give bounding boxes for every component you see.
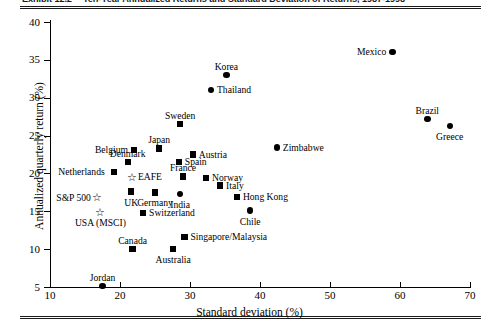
circle-marker-icon — [274, 144, 280, 150]
data-point-label: Canada — [118, 236, 147, 246]
scatter-plot: 510152025303540 10203040506070 MexicoKor… — [0, 0, 499, 327]
data-point-label: Switzerland — [149, 208, 195, 218]
data-point-label: Hong Kong — [243, 192, 288, 202]
x-tick-label: 10 — [35, 290, 65, 301]
x-tick-label: 70 — [455, 290, 485, 301]
y-axis-line — [50, 20, 51, 288]
x-tick-label: 50 — [315, 290, 345, 301]
data-point-label: Denmark — [110, 149, 146, 159]
data-point-label: Singapore/Malaysia — [190, 232, 267, 242]
data-point-label: Italy — [226, 181, 244, 191]
y-tick-mark — [44, 287, 50, 288]
x-tick-mark — [330, 282, 331, 287]
circle-marker-icon — [424, 116, 430, 122]
data-point-label: France — [170, 163, 196, 173]
x-tick-label: 60 — [385, 290, 415, 301]
x-tick-mark — [50, 282, 51, 287]
circle-marker-icon — [389, 49, 395, 55]
data-point-label: Zimbabwe — [283, 143, 324, 153]
circle-marker-icon — [208, 87, 214, 93]
x-tick-label: 20 — [105, 290, 135, 301]
square-marker-icon — [156, 145, 162, 151]
data-point-label: UK — [124, 198, 138, 208]
data-point-label: S&P 500 — [56, 193, 91, 203]
data-point-label: EAFE — [138, 172, 162, 182]
square-marker-icon — [203, 175, 209, 181]
circle-marker-icon — [447, 123, 453, 129]
data-point-label: Korea — [215, 62, 238, 72]
y-tick-mark — [44, 22, 50, 23]
x-tick-mark — [260, 282, 261, 287]
square-marker-icon — [128, 188, 134, 194]
data-point-label: Jordan — [90, 273, 116, 283]
x-tick-label: 30 — [175, 290, 205, 301]
square-marker-icon — [170, 246, 176, 252]
x-tick-mark — [400, 282, 401, 287]
data-point-label: Chile — [240, 217, 261, 227]
x-axis-label: Standard deviation (%) — [0, 306, 499, 318]
data-point-label: Australia — [156, 255, 191, 265]
square-marker-icon — [152, 189, 158, 195]
square-marker-icon — [181, 234, 187, 240]
y-tick-label: 40 — [14, 17, 40, 28]
exhibit-figure: Exhibit 12.2Ten-Year Annualized Returns … — [0, 0, 499, 327]
data-point-label: USA (MSCI) — [75, 218, 126, 228]
square-marker-icon — [177, 121, 183, 127]
data-point-label: Japan — [148, 135, 170, 145]
star-marker-icon — [95, 207, 105, 218]
circle-marker-icon — [99, 283, 105, 289]
data-point-label: Mexico — [357, 47, 386, 57]
star-marker-icon — [92, 192, 102, 203]
square-marker-icon — [180, 173, 186, 179]
square-marker-icon — [234, 194, 240, 200]
data-point-label: Brazil — [416, 106, 439, 116]
data-point-label: Greece — [436, 132, 463, 142]
circle-marker-icon — [223, 72, 229, 78]
x-tick-mark — [190, 282, 191, 287]
square-marker-icon — [129, 246, 135, 252]
x-tick-label: 40 — [245, 290, 275, 301]
circle-marker-icon — [177, 191, 183, 197]
circle-marker-icon — [247, 207, 253, 213]
square-marker-icon — [111, 169, 117, 175]
star-marker-icon — [127, 172, 137, 183]
x-tick-mark — [120, 282, 121, 287]
square-marker-icon — [125, 159, 131, 165]
x-tick-mark — [470, 282, 471, 287]
data-point-label: Sweden — [165, 111, 195, 121]
data-point-label: Thailand — [217, 85, 251, 95]
square-marker-icon — [217, 182, 223, 188]
square-marker-icon — [140, 210, 146, 216]
y-axis-label: Annualized quarterly return (%) — [33, 31, 45, 281]
data-point-label: Netherlands — [58, 167, 104, 177]
x-axis-line — [50, 287, 471, 288]
